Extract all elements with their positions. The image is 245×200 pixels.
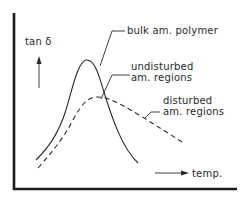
label-undisturbed-line1: undisturbed [131,61,193,72]
x-direction-arrow-icon [155,171,189,176]
leader-line-disturbed [145,112,160,118]
curve-undisturbed-disturbed-regions [38,97,182,168]
leader-line-bulk [100,31,125,66]
y-direction-arrow-icon [37,56,42,88]
y-axis-label: tan δ [25,36,52,47]
label-bulk-am-polymer: bulk am. polymer [127,25,218,36]
x-axis-label: temp. [192,168,222,179]
label-undisturbed-line2: am. regions [131,72,192,83]
label-disturbed-line1: disturbed [163,95,212,106]
label-disturbed-line2: am. regions [163,106,224,117]
